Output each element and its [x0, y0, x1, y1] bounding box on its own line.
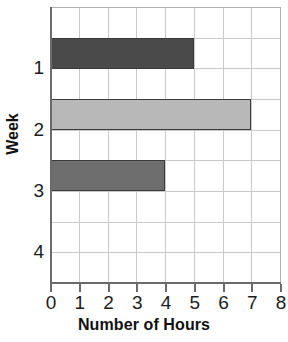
y-tick-label: 3 [16, 181, 44, 201]
bar-chart: 012345678 1234 Number of Hours Week [0, 0, 288, 342]
plot-frame-right [280, 7, 281, 283]
bar-week-3 [50, 160, 165, 191]
x-tick-label: 7 [240, 292, 264, 314]
bar-week-1 [50, 38, 194, 69]
plot-area [50, 7, 280, 283]
x-tick-mark [79, 284, 81, 292]
x-tick-mark [223, 284, 225, 292]
x-tick-mark [165, 284, 167, 292]
x-tick-mark [280, 284, 282, 292]
grid-line-vertical [223, 7, 224, 283]
x-tick-label: 6 [212, 292, 236, 314]
grid-line-horizontal [50, 191, 280, 192]
plot-frame-top [50, 7, 281, 8]
y-tick-label: 1 [16, 58, 44, 78]
x-tick-label: 4 [154, 292, 178, 314]
x-tick-label: 3 [125, 292, 149, 314]
x-tick-label: 5 [183, 292, 207, 314]
x-tick-mark [50, 284, 52, 292]
grid-line-horizontal [50, 222, 280, 223]
x-tick-mark [251, 284, 253, 292]
x-axis-title: Number of Hours [0, 316, 288, 334]
grid-line-horizontal [50, 130, 280, 131]
x-tick-mark [194, 284, 196, 292]
grid-line-horizontal [50, 252, 280, 253]
y-axis-title: Week [4, 94, 22, 174]
bar-week-2 [50, 99, 251, 130]
x-tick-label: 1 [68, 292, 92, 314]
grid-line-vertical [251, 7, 252, 283]
y-tick-label: 4 [16, 242, 44, 262]
x-tick-label: 8 [269, 292, 288, 314]
y-axis-line [50, 7, 52, 284]
x-tick-label: 2 [97, 292, 121, 314]
x-tick-mark [136, 284, 138, 292]
x-tick-mark [108, 284, 110, 292]
